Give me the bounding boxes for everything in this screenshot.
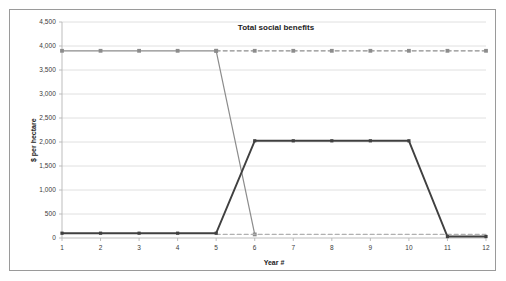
series-marker-dark-solid	[407, 139, 410, 142]
chart-title: Total social benefits	[0, 23, 506, 32]
series-line-dark-solid	[62, 141, 486, 237]
series-group	[60, 49, 488, 238]
series-marker-dark-solid	[369, 139, 372, 142]
x-tick-label: 12	[472, 244, 500, 251]
x-tick-label: 1	[48, 244, 76, 251]
x-tick-label: 2	[87, 244, 115, 251]
line-chart-canvas	[0, 0, 506, 281]
x-tick-label: 5	[202, 244, 230, 251]
y-tick-label: 2,000	[20, 138, 56, 145]
y-tick-label: 1,000	[20, 186, 56, 193]
x-tick-label: 3	[125, 244, 153, 251]
series-marker-grey-solid-high	[176, 49, 180, 53]
y-tick-label: 3,500	[20, 66, 56, 73]
series-marker-dark-solid	[330, 139, 333, 142]
y-tick-label: 500	[20, 210, 56, 217]
x-axis-title: Year #	[62, 259, 486, 266]
x-tick-label: 10	[395, 244, 423, 251]
series-marker-dark-solid	[137, 232, 140, 235]
x-tick-label: 8	[318, 244, 346, 251]
x-tick-label: 11	[433, 244, 461, 251]
series-line-grey-solid-high	[62, 51, 255, 235]
x-tick-label: 9	[356, 244, 384, 251]
series-marker-dark-solid	[446, 235, 449, 238]
series-marker-dark-solid	[215, 232, 218, 235]
y-tick-label: 1,500	[20, 162, 56, 169]
y-tick-label: 2,500	[20, 114, 56, 121]
series-marker-dark-solid	[60, 232, 63, 235]
series-marker-grey-dashed-high	[291, 49, 295, 53]
series-marker-grey-dashed-high	[330, 49, 334, 53]
y-tick-label: 4,000	[20, 42, 56, 49]
y-tick-label: 3,000	[20, 90, 56, 97]
series-marker-dark-solid	[292, 139, 295, 142]
x-tick-label: 6	[241, 244, 269, 251]
series-marker-grey-dashed-high	[214, 49, 218, 53]
series-marker-grey-dashed-high	[446, 49, 450, 53]
series-marker-dark-solid	[99, 232, 102, 235]
x-tick-label: 7	[279, 244, 307, 251]
axis-lines-group	[59, 22, 486, 238]
series-marker-dark-solid	[253, 139, 256, 142]
chart-screenshot: Total social benefits Year # $ per hecta…	[0, 0, 506, 281]
series-marker-grey-solid-high	[60, 49, 64, 53]
series-marker-grey-dashed-high	[407, 49, 411, 53]
y-tick-label: 0	[20, 234, 56, 241]
series-marker-grey-solid-high	[99, 49, 103, 53]
series-marker-grey-dashed-high	[368, 49, 372, 53]
series-marker-grey-solid-high	[137, 49, 141, 53]
series-marker-grey-dashed-high	[484, 49, 488, 53]
series-marker-dark-solid	[484, 235, 487, 238]
series-marker-dark-solid	[176, 232, 179, 235]
y-tick-label: 4,500	[20, 18, 56, 25]
series-marker-grey-dashed-high	[253, 49, 257, 53]
x-tick-label: 4	[164, 244, 192, 251]
